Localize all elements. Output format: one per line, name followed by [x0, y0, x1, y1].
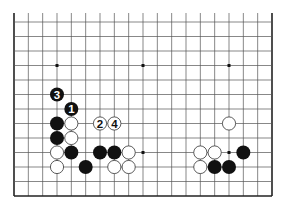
white-stone-icon	[208, 146, 221, 159]
white-stone-icon	[50, 146, 63, 159]
white-stone	[194, 146, 207, 159]
black-stone	[107, 146, 121, 160]
black-stone-icon	[93, 146, 107, 160]
star-point	[56, 64, 59, 67]
black-stone	[222, 160, 236, 174]
black-stone	[50, 131, 64, 145]
white-stone	[50, 160, 63, 173]
white-stone-icon	[222, 117, 235, 130]
black-stone-icon	[236, 146, 250, 160]
white-stone-icon	[65, 117, 78, 130]
white-stone-icon	[122, 160, 135, 173]
white-stone-icon	[108, 160, 121, 173]
white-stone	[194, 160, 207, 173]
white-stone-icon	[50, 160, 63, 173]
white-stone-icon	[194, 146, 207, 159]
star-point	[142, 151, 145, 154]
black-stone-icon	[107, 146, 121, 160]
white-stone	[208, 146, 221, 159]
white-stone	[122, 160, 135, 173]
move-number-label: 1	[68, 103, 75, 115]
black-stone	[93, 146, 107, 160]
white-stone	[122, 146, 135, 159]
move-number-label: 3	[54, 89, 60, 101]
black-stone-icon	[208, 160, 222, 174]
black-stone	[79, 160, 93, 174]
black-stone-icon	[222, 160, 236, 174]
black-stone	[236, 146, 250, 160]
white-stone	[65, 117, 78, 130]
black-stone-icon	[50, 117, 64, 131]
black-stone-icon	[50, 131, 64, 145]
white-stone-move-4: 4	[108, 117, 121, 130]
white-stone	[108, 160, 121, 173]
white-stone-icon	[194, 160, 207, 173]
star-point	[228, 151, 231, 154]
black-stone-icon	[79, 160, 93, 174]
white-stone-icon	[122, 146, 135, 159]
star-point	[142, 64, 145, 67]
white-stone	[222, 117, 235, 130]
move-number-label: 4	[111, 118, 118, 130]
stones-layer: 3124	[50, 88, 250, 175]
black-stone	[208, 160, 222, 174]
black-stone-icon	[64, 146, 78, 160]
black-stone-move-1: 1	[64, 102, 78, 116]
go-board-diagram: 3124	[0, 0, 283, 210]
black-stone-move-3: 3	[50, 88, 64, 102]
white-stone-move-2: 2	[93, 117, 106, 130]
white-stone-icon	[65, 131, 78, 144]
white-stone	[65, 131, 78, 144]
move-number-label: 2	[97, 118, 103, 130]
star-point	[228, 64, 231, 67]
white-stone	[50, 146, 63, 159]
black-stone	[50, 117, 64, 131]
black-stone	[64, 146, 78, 160]
